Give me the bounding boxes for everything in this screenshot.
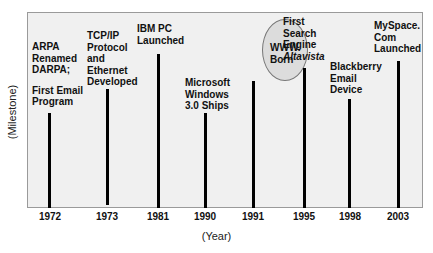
label-1990: Microsoft Windows 3.0 Ships — [185, 77, 230, 112]
x-tick-1998: 1998 — [339, 211, 361, 222]
stem-1972 — [48, 113, 51, 208]
x-tick-1973: 1973 — [96, 211, 118, 222]
x-tick-1995: 1995 — [293, 211, 315, 222]
label-1998: Blackberry Email Device — [330, 61, 382, 96]
stem-1991 — [252, 81, 255, 208]
x-axis-label: (Year) — [0, 230, 433, 242]
label-1981: IBM PC Launched — [137, 23, 184, 46]
stem-1973 — [106, 89, 109, 205]
x-tick-1972: 1972 — [39, 211, 61, 222]
x-tick-1990: 1990 — [194, 211, 216, 222]
stem-1995 — [303, 68, 306, 208]
stem-1981 — [157, 54, 160, 208]
label-1972: ARPA Renamed DARPA; First Email Program — [32, 41, 83, 108]
y-axis-label: (Milestone) — [6, 85, 18, 139]
stem-1998 — [348, 99, 351, 208]
label-2003: MySpace. Com Launched — [374, 20, 421, 55]
x-tick-2003: 2003 — [387, 211, 409, 222]
label-1995: First Search Engine Altavista — [283, 16, 325, 62]
stem-2003 — [397, 61, 400, 208]
x-tick-1981: 1981 — [147, 211, 169, 222]
label-1973: TCP/IP Protocol and Ethernet Developed — [87, 30, 138, 88]
x-tick-1991: 1991 — [242, 211, 264, 222]
stem-1990 — [204, 113, 207, 208]
